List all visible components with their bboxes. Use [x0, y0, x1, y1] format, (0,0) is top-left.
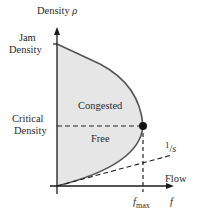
critical-label-line2: Density	[12, 125, 47, 137]
slope-num: 1	[165, 140, 170, 150]
slope-label: 1/s	[165, 139, 176, 155]
jam-density-label: Jam Density	[9, 32, 42, 56]
critical-label-line1: Critical	[12, 113, 47, 125]
y-axis-label-text: Density	[37, 5, 70, 16]
x-axis-symbol: f	[170, 196, 173, 208]
congested-region-label: Congested	[78, 100, 122, 112]
jam-label-line2: Density	[9, 44, 42, 56]
fmax-sub: max	[136, 201, 150, 210]
y-axis-symbol: ρ	[72, 5, 77, 16]
y-axis-label: Density ρ	[37, 5, 77, 17]
y-axis-arrow-icon	[54, 27, 60, 35]
x-axis-label: Flow	[165, 173, 187, 185]
slope-den: s	[172, 143, 176, 154]
free-region-label: Free	[91, 133, 110, 145]
shaded-region	[57, 44, 143, 186]
critical-density-label: Critical Density	[12, 113, 47, 137]
fmax-label: fmax	[133, 196, 150, 212]
jam-label-line1: Jam	[9, 32, 42, 44]
critical-point	[139, 122, 147, 130]
